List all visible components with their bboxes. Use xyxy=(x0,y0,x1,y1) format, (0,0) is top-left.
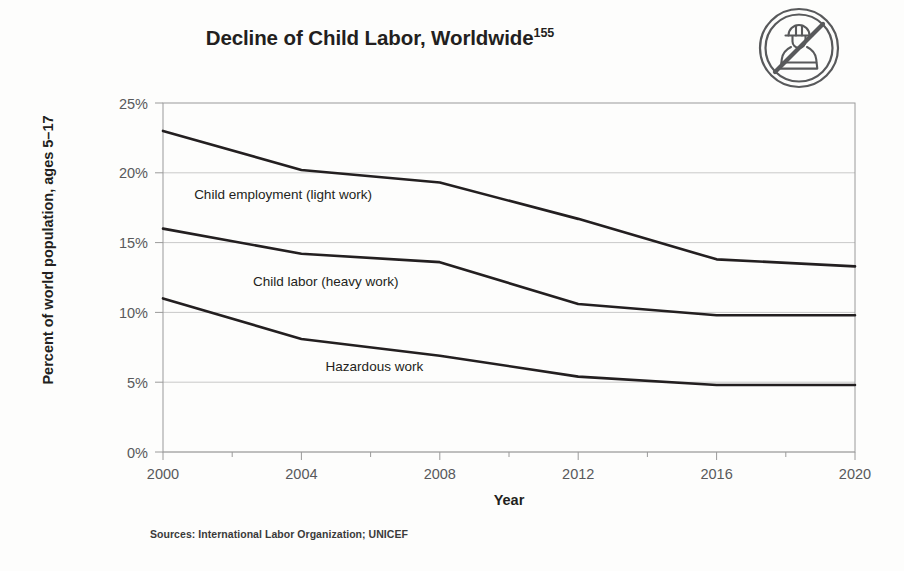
gridlines xyxy=(163,173,855,452)
y-tick-label: 5% xyxy=(127,375,148,391)
y-axis-tick-labels: 0%5%10%15%20%25% xyxy=(119,96,148,461)
series-label: Child employment (light work) xyxy=(194,187,372,202)
x-tick-label: 2004 xyxy=(285,466,317,482)
y-tick-label: 0% xyxy=(127,445,148,461)
y-tick-label: 10% xyxy=(119,305,148,321)
x-axis-tick-labels: 200020042008201220162020 xyxy=(147,466,871,482)
series-label: Child labor (heavy work) xyxy=(253,274,399,289)
x-tick-label: 2000 xyxy=(147,466,179,482)
chart-figure: Decline of Child Labor, Worldwide155 Per… xyxy=(0,0,904,571)
x-tick-label: 2016 xyxy=(700,466,732,482)
x-tick-label: 2008 xyxy=(424,466,456,482)
series-label: Hazardous work xyxy=(326,359,424,374)
plot-area: 0%5%10%15%20%25% 20002004200820122016202… xyxy=(0,0,904,571)
x-tick-label: 2012 xyxy=(562,466,594,482)
series-lines xyxy=(163,131,855,385)
series-line xyxy=(163,229,855,316)
y-tick-label: 15% xyxy=(119,235,148,251)
series-line xyxy=(163,298,855,385)
y-tick-label: 25% xyxy=(119,96,148,112)
series-inline-labels: Child employment (light work)Child labor… xyxy=(194,187,423,374)
x-tick-label: 2020 xyxy=(839,466,871,482)
y-tick-label: 20% xyxy=(119,165,148,181)
